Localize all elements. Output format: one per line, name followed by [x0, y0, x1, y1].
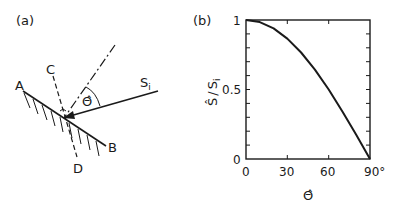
panel-b: (b) 1 0.5 0 0 30 60 90° — [193, 13, 385, 203]
plot-frame — [246, 20, 370, 159]
point-label-b: B — [108, 140, 117, 155]
x-ticks — [287, 20, 328, 159]
point-label-a: A — [15, 78, 24, 93]
surface-line — [23, 91, 106, 146]
y-axis-label: Ŝ/Si — [205, 79, 222, 106]
panel-a-label: (a) — [16, 13, 34, 28]
ytick-0: 0 — [233, 153, 241, 167]
xtick-60: 60 — [320, 165, 335, 179]
xtick-0: 0 — [242, 165, 250, 179]
ytick-0-5: 0.5 — [222, 83, 241, 97]
x-axis-label: Θ̂ — [303, 188, 313, 203]
ytick-1: 1 — [233, 14, 241, 28]
cos-curve — [246, 20, 370, 159]
angle-label: Θ̂ — [82, 94, 92, 109]
panel-a: (a) Θ̂ A B C D Si — [15, 13, 158, 176]
panel-b-label: (b) — [193, 13, 211, 28]
point-label-c: C — [46, 62, 55, 77]
beam-label: Si — [140, 75, 151, 92]
point-label-d: D — [73, 161, 83, 176]
xtick-30: 30 — [279, 165, 294, 179]
figure-canvas: (a) Θ̂ A B C D Si — [0, 0, 394, 216]
xtick-90: 90° — [364, 165, 385, 179]
